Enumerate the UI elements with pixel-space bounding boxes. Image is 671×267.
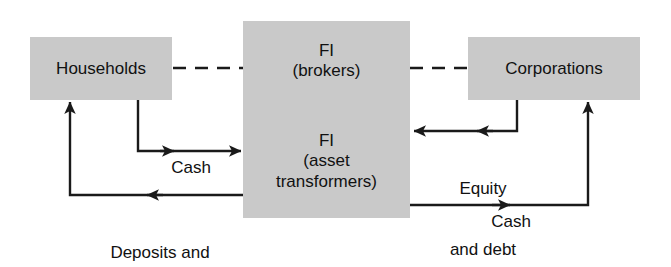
- node-households: Households: [30, 37, 172, 100]
- edge-label-cash-left: Cash: [151, 158, 231, 178]
- edge-label-equity-line2: and debt: [423, 240, 543, 260]
- node-fi-brokers-label: FI (brokers): [243, 41, 410, 82]
- node-fi-transformers-line3: transformers): [243, 172, 410, 192]
- node-corporations-label: Corporations: [505, 59, 602, 79]
- node-households-label: Households: [56, 59, 146, 79]
- connector-equity-debt-corporations-to-fi: [414, 100, 517, 131]
- node-fi-transformers-line1: FI: [243, 131, 410, 151]
- node-fi-transformers-line2: (asset: [243, 151, 410, 171]
- edge-label-cash-right: Cash: [471, 212, 551, 232]
- edge-label-deposits-line1: Deposits and: [50, 243, 270, 263]
- diagram-canvas: Households FI (brokers) FI (asset transf…: [0, 0, 671, 267]
- node-fi-asset-transformers-label: FI (asset transformers): [243, 131, 410, 192]
- edge-label-equity-and-debt: Equity and debt: [423, 138, 543, 267]
- edge-label-equity-line1: Equity: [423, 179, 543, 199]
- node-fi-brokers-line1: FI: [243, 41, 410, 61]
- node-corporations: Corporations: [468, 37, 640, 100]
- connector-deposits-fi-to-households: [70, 102, 243, 195]
- edge-label-deposits-and-insurance-policies: Deposits and insurance policies: [50, 202, 270, 267]
- node-fi-brokers-line2: (brokers): [243, 61, 410, 81]
- node-financial-intermediaries: FI (brokers) FI (asset transformers): [243, 21, 410, 218]
- connector-cash-households-to-fi: [138, 100, 241, 151]
